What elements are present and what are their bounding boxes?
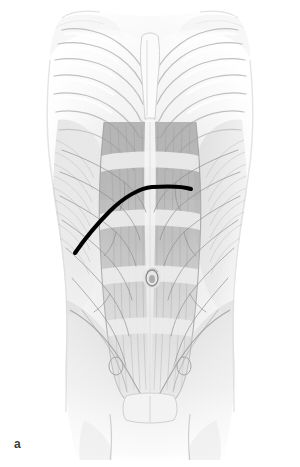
figure-label: a [14,437,21,451]
anatomical-figure: a [0,0,300,467]
torso-anatomy-illustration [0,0,300,467]
umbilicus [143,267,161,289]
